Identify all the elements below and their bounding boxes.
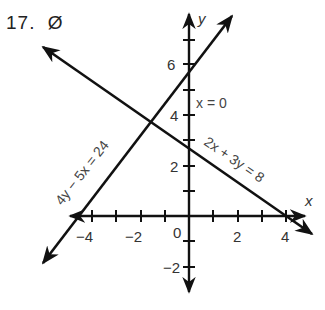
y-tick-label: 2: [170, 158, 178, 175]
x-axis-label: x: [304, 192, 313, 209]
x-tick-label: −2: [125, 228, 142, 245]
x-tick-label: 2: [233, 228, 241, 245]
y-axis: [183, 14, 195, 292]
x-tick-label: −4: [76, 228, 93, 245]
y-axis-label: y: [197, 10, 207, 27]
y-tick-label: 6: [167, 56, 175, 73]
equation-label-line2: 2x + 3y = 8: [201, 133, 267, 186]
y-tick-label: −2: [163, 259, 180, 276]
equation-label-line1: 4y − 5x = 24: [52, 137, 112, 208]
x-axis: [70, 210, 305, 222]
line-4y-minus-5x-eq-24: [43, 16, 232, 263]
x-tick-label: 0: [173, 224, 181, 241]
line-2x-plus-3y-eq-8: [43, 47, 312, 234]
equation-label-x-eq-0: x = 0: [196, 95, 227, 111]
x-tick-label: 4: [281, 228, 289, 245]
y-tick-label: 4: [170, 107, 178, 124]
graph: y x −4 −2 0 2 4 6 4 2 −2 4y − 5x = 24 2x…: [0, 0, 325, 310]
